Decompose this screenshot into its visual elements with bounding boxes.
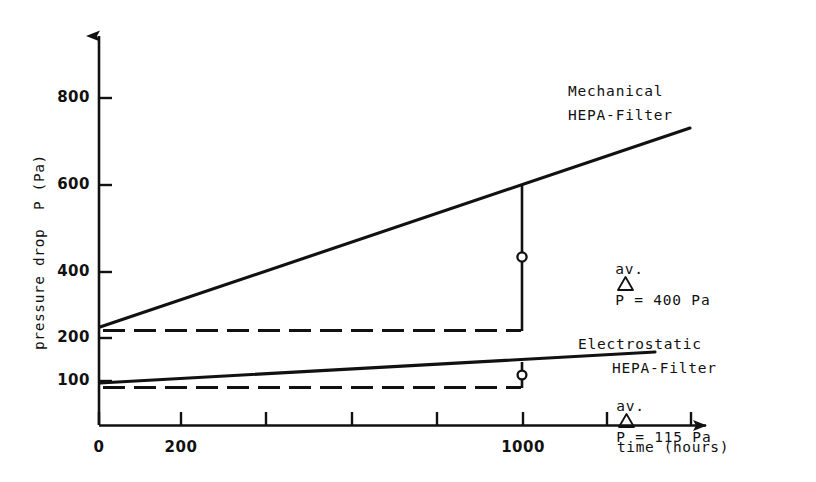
mechanical-filter-label-line1: Mechanical	[568, 84, 663, 99]
y-axis-ticks	[99, 98, 112, 381]
electrostatic-marker-circle	[518, 371, 527, 380]
electrostatic-filter-label-line2: HEPA-Filter	[612, 361, 717, 376]
electrostatic-filter-label-line1: Electrostatic	[578, 337, 702, 352]
x-tick-label-1000: 1000	[487, 440, 559, 455]
triangle-delta-icon	[617, 276, 634, 291]
series-electrostatic-hepa-filter	[100, 352, 655, 388]
y-tick-label-200: 200	[44, 330, 90, 345]
mechanical-avg-value: P = 400 Pa	[615, 292, 710, 308]
y-tick-label-100: 100	[44, 373, 90, 388]
mechanical-avg-prefix: av.	[615, 261, 644, 277]
electrostatic-solid-line	[100, 352, 655, 383]
mechanical-marker-circle	[517, 252, 526, 261]
x-tick-label-200: 200	[152, 440, 210, 455]
mechanical-average-delta-p: av. P = 400 Pa	[577, 247, 710, 322]
y-tick-label-800: 800	[44, 90, 90, 105]
triangle-delta-icon	[618, 413, 635, 428]
x-tick-label-0: 0	[84, 440, 114, 455]
y-tick-label-600: 600	[44, 177, 90, 192]
mechanical-filter-label-line2: HEPA-Filter	[568, 108, 673, 123]
pressure-drop-chart-figure: pressure drop P (Pa) 800 600 400 200 100…	[0, 0, 816, 482]
electrostatic-avg-value: P = 115 Pa	[616, 429, 711, 445]
y-tick-label-400: 400	[44, 264, 90, 279]
electrostatic-average-delta-p: av. P = 115 Pa	[578, 384, 711, 459]
electrostatic-avg-prefix: av.	[616, 398, 645, 414]
